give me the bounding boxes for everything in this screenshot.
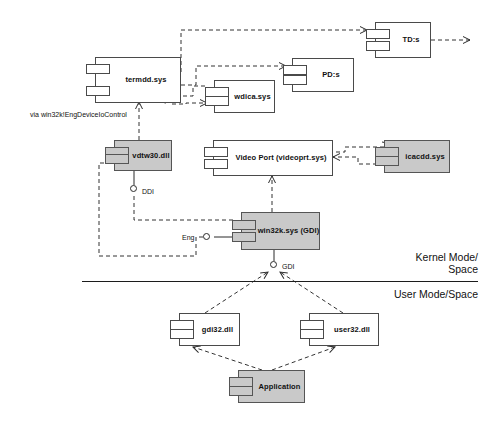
component-label: PD:s	[306, 71, 340, 79]
component-port-lower	[375, 156, 399, 166]
connector-application-to-gdi32	[193, 347, 262, 370]
component-icacdd-sys[interactable]: icacdd.sys	[384, 140, 450, 173]
component-label: termdd.sys	[109, 76, 166, 84]
component-port-lower	[232, 232, 256, 242]
component-port-lower	[170, 329, 194, 339]
connector-application-to-user32	[272, 347, 335, 370]
diagram-canvas: termdd.sys TD:s PD:s wdica.sys vdtw30.dl…	[0, 0, 501, 429]
component-label: Video Port (videoprt.sys)	[219, 154, 326, 162]
interface-lollipop-ddi[interactable]	[130, 185, 137, 192]
component-win32k-sys[interactable]: win32k.sys (GDI)	[241, 212, 320, 250]
kernel-mode-label: Kernel Mode/ Space	[338, 251, 478, 275]
component-port-lower	[300, 329, 324, 339]
connector-eng	[99, 163, 232, 256]
component-port-lower	[205, 96, 229, 106]
component-application[interactable]: Application	[238, 370, 305, 403]
component-port-lower	[283, 75, 307, 85]
component-port-upper	[86, 64, 110, 74]
component-port-upper	[283, 65, 307, 75]
component-label: TD:s	[386, 36, 419, 44]
note-eng-device-io-control: via win32k!EngDeviceIoControl	[30, 111, 127, 118]
component-termdd-sys[interactable]: termdd.sys	[95, 57, 181, 103]
component-vdtw30-dll[interactable]: vdtw30.dll	[114, 140, 172, 171]
connector-user32-to-gdi	[280, 272, 343, 313]
kernel-user-divider	[82, 281, 478, 282]
interface-label-eng: Eng	[182, 234, 194, 241]
component-tds[interactable]: TD:s	[375, 22, 431, 58]
interface-label-ddi: DDI	[142, 188, 154, 195]
component-port-lower	[366, 41, 390, 51]
component-pds[interactable]: PD:s	[292, 58, 354, 92]
component-wdica-sys[interactable]: wdica.sys	[214, 80, 275, 113]
connector-gdi32-to-gdi	[205, 272, 268, 313]
component-port-lower	[86, 86, 110, 96]
component-gdi32-dll[interactable]: gdi32.dll	[179, 313, 240, 346]
component-port-upper	[366, 29, 390, 39]
component-video-port[interactable]: Video Port (videoprt.sys)	[213, 140, 333, 176]
interface-lollipop-eng[interactable]	[203, 233, 210, 240]
component-label: user32.dll	[318, 326, 370, 334]
connector-termdd-to-wdica	[172, 103, 207, 104]
interface-lollipop-gdi[interactable]	[270, 261, 277, 268]
component-port-upper	[232, 220, 256, 230]
component-port-lower	[204, 159, 228, 169]
component-port-lower	[105, 154, 129, 164]
component-user32-dll[interactable]: user32.dll	[309, 313, 379, 346]
interface-label-gdi: GDI	[282, 263, 294, 270]
connector-ddi	[134, 170, 233, 220]
component-port-upper	[204, 147, 228, 157]
user-mode-label: User Mode/Space	[338, 288, 478, 300]
component-port-lower	[229, 386, 253, 396]
